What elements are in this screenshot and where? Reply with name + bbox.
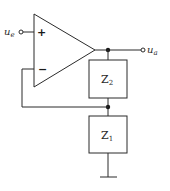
opamp-triangle [34,14,95,87]
input-terminal [19,30,23,34]
output-terminal [141,48,145,52]
output-label: ua [147,44,158,57]
circuit-diagram: + − ue ua Z2 Z1 [0,0,170,191]
input-label: ue [4,26,15,39]
opamp-plus-sign: + [37,26,46,39]
opamp-minus-sign: − [38,63,47,76]
